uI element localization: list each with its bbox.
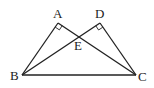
segment-ab [22,23,58,75]
label-b: B [10,68,19,83]
label-e: E [74,38,82,53]
segment-db [22,23,100,75]
segment-ac [58,23,136,75]
label-d: D [95,6,104,21]
segment-dc [100,23,136,75]
geometry-diagram: A D E B C [0,0,154,88]
label-c: C [138,69,147,84]
label-a: A [53,6,63,21]
